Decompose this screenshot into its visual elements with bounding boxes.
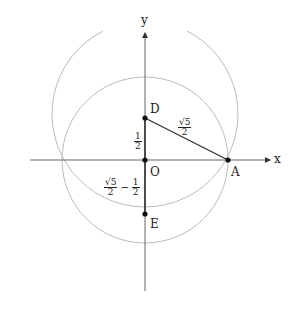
label-a: A — [231, 166, 240, 178]
label-e: E — [150, 218, 159, 230]
x-axis-label: x — [274, 153, 281, 165]
y-axis-label: y — [141, 14, 148, 26]
label-oe: √52 − 12 — [104, 178, 140, 197]
diagram: y x D O A E 12 √52 √52 − 12 — [0, 0, 295, 313]
point-a — [225, 157, 230, 162]
geometry-canvas — [0, 0, 295, 313]
label-da-sqrt5-over-2: √52 — [178, 118, 191, 137]
point-d — [142, 115, 147, 120]
label-do-half: 12 — [134, 132, 142, 151]
point-e — [142, 211, 147, 216]
label-o: O — [150, 166, 160, 178]
point-o — [142, 157, 147, 162]
label-d: D — [150, 103, 160, 115]
